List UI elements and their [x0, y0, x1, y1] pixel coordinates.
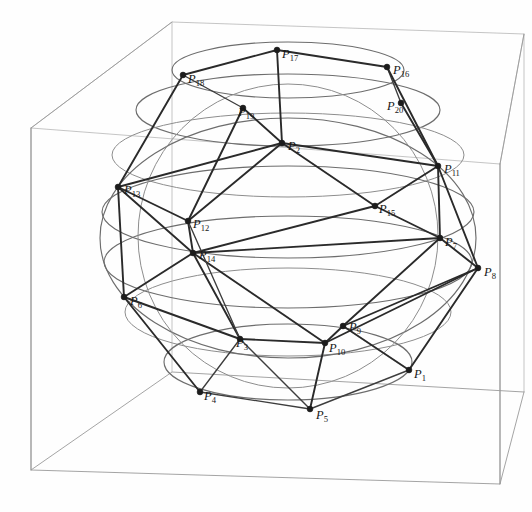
vertex-dot: [185, 218, 191, 224]
vertex-dot: [274, 47, 280, 53]
vertex-p20: P20: [386, 99, 404, 115]
vertex-label-p8: P8: [483, 265, 496, 281]
edge-p17-p2: [277, 50, 282, 143]
vertex-p7: P7: [437, 235, 458, 251]
vertex-dot: [180, 72, 186, 78]
vertex-p4: P4: [197, 389, 217, 405]
bbox-front-face: [31, 128, 500, 484]
bbox-edge-bottom-back: [31, 372, 524, 470]
vertex-dot: [437, 235, 443, 241]
vertex-label-p17: P17: [281, 47, 299, 63]
vertex-label-p7: P7: [444, 235, 458, 251]
vertex-p19: P19: [237, 105, 254, 121]
edge-p7-p9: [343, 238, 440, 326]
vertex-dot: [322, 340, 328, 346]
vertex-dot: [197, 389, 203, 395]
vertex-label-p12: P12: [192, 217, 209, 233]
vertex-dot: [435, 163, 441, 169]
vertex-dot: [307, 406, 313, 412]
vertex-label-p1: P1: [413, 367, 426, 383]
vertex-label-p6: P6: [129, 294, 143, 310]
vertex-dot: [115, 184, 121, 190]
bbox-edge-top-right: [500, 34, 524, 164]
bbox-edge-top-left: [31, 22, 172, 128]
3d-point-configuration-plot: P1P4P5P6P7P8P9P10P3P11P12P13P14P15P16P17…: [0, 0, 532, 512]
vertex-p8: P8: [475, 265, 496, 281]
vertex-label-p9: P9: [348, 320, 361, 336]
figure-canvas: P1P4P5P6P7P8P9P10P3P11P12P13P14P15P16P17…: [0, 0, 532, 512]
vertex-dot: [279, 140, 285, 146]
vertex-label-p15: P15: [378, 202, 395, 218]
latitude-circle-6: [125, 268, 451, 356]
vertex-p5: P5: [307, 406, 328, 424]
latitude-circle-4: [102, 166, 474, 258]
vertex-p18: P18: [180, 72, 204, 88]
edge-p1-p5: [310, 370, 409, 409]
vertex-dot: [190, 250, 196, 256]
vertex-label-p11: P11: [443, 162, 460, 178]
vertex-label-p19: P19: [237, 105, 254, 121]
edge-p2-p13: [118, 143, 282, 187]
vertex-dot: [121, 294, 127, 300]
bbox-edge-bottom-right: [500, 392, 524, 484]
vertex-label-p4: P4: [203, 389, 217, 405]
vertex-dot: [340, 323, 346, 329]
latitude-circle-3: [112, 113, 464, 197]
edge-p18-p17: [183, 50, 277, 75]
vertex-p15: P15: [372, 202, 395, 218]
vertex-label-p5: P5: [315, 408, 328, 424]
latitude-circle-7: [164, 324, 412, 400]
vertex-dot: [406, 367, 412, 373]
edge-p18-p13: [118, 75, 183, 187]
vertex-label-p2: P2: [287, 139, 300, 155]
vertex-dot: [384, 64, 390, 70]
edge-p14-p7: [193, 238, 440, 253]
edge-p19-p12: [188, 108, 243, 221]
edge-p4-p3: [200, 339, 240, 392]
vertex-p6: P6: [121, 294, 143, 310]
bounding-box: [31, 22, 524, 484]
bbox-back-face: [31, 22, 524, 164]
vertex-p1: P1: [406, 367, 426, 383]
edge-p15-p14: [193, 206, 375, 253]
latitude-circle-8: [100, 118, 476, 358]
vertex-dot: [475, 265, 481, 271]
vertex-label-p18: P18: [187, 72, 204, 88]
edge-p14-p6: [124, 253, 193, 297]
vertex-label-p10: P10: [328, 341, 345, 357]
edge-p14-p3: [193, 253, 240, 339]
vertex-dot: [372, 203, 378, 209]
edge-p3-p10: [240, 339, 325, 343]
vertex-label-p16: P16: [392, 63, 410, 79]
vertex-label-p14: P14: [198, 248, 216, 264]
